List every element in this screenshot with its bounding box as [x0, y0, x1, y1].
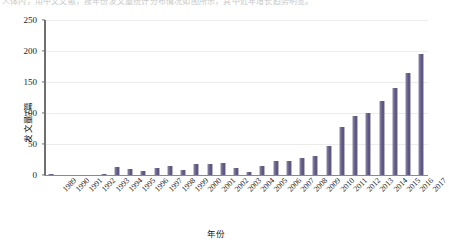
bar[interactable]: [419, 54, 424, 175]
bar-slot: [137, 20, 150, 175]
bar[interactable]: [247, 172, 252, 175]
bar-slot: [282, 20, 295, 175]
bar-slot: [362, 20, 375, 175]
bar-slot: [123, 20, 136, 175]
bar-slot: [216, 20, 229, 175]
bar[interactable]: [300, 158, 305, 175]
bar-slot: [84, 20, 97, 175]
y-axis-title: 发文量/篇: [21, 101, 33, 142]
bar[interactable]: [101, 174, 106, 175]
bar-slot: [296, 20, 309, 175]
bar-slot: [163, 20, 176, 175]
bar[interactable]: [220, 163, 225, 175]
bar[interactable]: [128, 169, 133, 175]
bar[interactable]: [233, 168, 238, 175]
cut-off-caption-text: 人体内，用中文文献，按年份发文量统计分布情况如图所示，其中近年增长趋势明显。: [2, 0, 432, 6]
bar-series: [44, 20, 428, 175]
plot-area: [44, 20, 428, 175]
bar[interactable]: [406, 73, 411, 175]
bar[interactable]: [181, 170, 186, 175]
bar-slot: [269, 20, 282, 175]
bar[interactable]: [326, 146, 331, 175]
bar-slot: [415, 20, 428, 175]
bar[interactable]: [167, 166, 172, 175]
bar[interactable]: [273, 161, 278, 175]
bar-slot: [335, 20, 348, 175]
bar[interactable]: [207, 164, 212, 175]
x-axis-title: 年份: [0, 227, 432, 239]
y-axis-labels: 050100150200250: [0, 20, 42, 180]
bar-slot: [176, 20, 189, 175]
bar[interactable]: [260, 166, 265, 175]
bar[interactable]: [141, 171, 146, 175]
bar-slot: [57, 20, 70, 175]
bar-slot: [402, 20, 415, 175]
bar-slot: [229, 20, 242, 175]
y-tick-label: 200: [24, 46, 38, 56]
bar[interactable]: [379, 101, 384, 175]
bar[interactable]: [392, 88, 397, 175]
x-tick-label: 2017: [431, 176, 449, 194]
bar[interactable]: [366, 113, 371, 175]
bar-slot: [97, 20, 110, 175]
y-tick-label: 250: [24, 15, 38, 25]
bar[interactable]: [339, 127, 344, 175]
bar-slot: [375, 20, 388, 175]
bar[interactable]: [194, 164, 199, 175]
x-axis-labels: 1989199019911992199319941995199619971998…: [44, 176, 428, 224]
cut-off-caption: 人体内，用中文文献，按年份发文量统计分布情况如图所示，其中近年增长趋势明显。: [0, 0, 432, 9]
bar[interactable]: [154, 168, 159, 175]
bar[interactable]: [114, 167, 119, 175]
bar-slot: [190, 20, 203, 175]
bar[interactable]: [313, 156, 318, 175]
y-tick-label: 150: [24, 77, 38, 87]
bar-slot: [243, 20, 256, 175]
bar-slot: [110, 20, 123, 175]
y-tick-label: 0: [33, 170, 38, 180]
bar[interactable]: [286, 161, 291, 175]
bar[interactable]: [353, 116, 358, 175]
bar[interactable]: [48, 174, 53, 175]
bar-slot: [309, 20, 322, 175]
bar-slot: [203, 20, 216, 175]
bar-slot: [70, 20, 83, 175]
bar-slot: [44, 20, 57, 175]
bar-slot: [388, 20, 401, 175]
bar-slot: [322, 20, 335, 175]
bar-slot: [256, 20, 269, 175]
bar-slot: [150, 20, 163, 175]
bar-slot: [349, 20, 362, 175]
